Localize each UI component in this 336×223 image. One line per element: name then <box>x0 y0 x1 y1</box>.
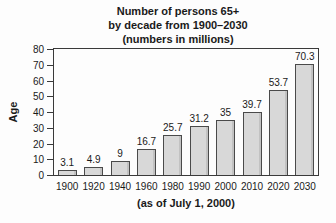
x-tick-label: 2010 <box>241 181 263 192</box>
bar <box>243 112 262 175</box>
x-tick-label: 1990 <box>188 181 210 192</box>
x-axis-labels: 1900192019401960198019902000201020202030 <box>53 181 319 193</box>
bar <box>190 126 209 175</box>
plot-area: 3.14.9916.725.731.23539.753.770.3 <box>53 48 319 176</box>
bar-chart-figure: Number of persons 65+ by decade from 190… <box>0 0 336 223</box>
x-tick-label: 1920 <box>82 181 104 192</box>
bar <box>216 120 235 175</box>
chart-title: Number of persons 65+ by decade from 190… <box>20 4 336 46</box>
y-tick-label: 10 <box>16 154 44 165</box>
x-tick-label: 2020 <box>267 181 289 192</box>
x-tick-label: 1960 <box>135 181 157 192</box>
x-tick-label: 2030 <box>294 181 316 192</box>
bar <box>137 149 156 175</box>
bar <box>58 170 77 175</box>
y-tick-label: 70 <box>16 59 44 70</box>
y-tick-label: 20 <box>16 138 44 149</box>
chart-title-line-1: Number of persons 65+ <box>20 4 336 18</box>
bar <box>163 135 182 175</box>
bar-value-label: 4.9 <box>87 154 101 165</box>
x-tick-label: 1900 <box>56 181 78 192</box>
bar <box>111 161 130 175</box>
bar-value-label: 9 <box>117 148 123 159</box>
bar <box>84 167 103 175</box>
y-axis-tick-labels: 01020304050607080 <box>16 48 44 176</box>
bar-value-label: 3.1 <box>60 157 74 168</box>
chart-title-line-2: by decade from 1900–2030 <box>20 18 336 32</box>
x-tick-label: 2000 <box>214 181 236 192</box>
bar <box>269 90 288 175</box>
bar-value-label: 35 <box>220 107 231 118</box>
bar-value-label: 25.7 <box>163 122 182 133</box>
bar-value-label: 39.7 <box>242 99 261 110</box>
y-tick-label: 50 <box>16 91 44 102</box>
y-tick-label: 60 <box>16 75 44 86</box>
x-tick-label: 1980 <box>162 181 184 192</box>
bar-value-label: 16.7 <box>137 136 156 147</box>
y-tick-label: 30 <box>16 122 44 133</box>
bar-value-label: 31.2 <box>189 113 208 124</box>
chart-caption: (as of July 1, 2000) <box>53 197 319 209</box>
y-tick-label: 80 <box>16 44 44 55</box>
y-tick-label: 40 <box>16 107 44 118</box>
bar <box>295 64 314 175</box>
chart-title-line-3: (numbers in millions) <box>20 32 336 46</box>
bar-value-label: 53.7 <box>269 77 288 88</box>
x-tick-label: 1940 <box>109 181 131 192</box>
y-tick-label: 0 <box>16 170 44 181</box>
bar-value-label: 70.3 <box>295 51 314 62</box>
